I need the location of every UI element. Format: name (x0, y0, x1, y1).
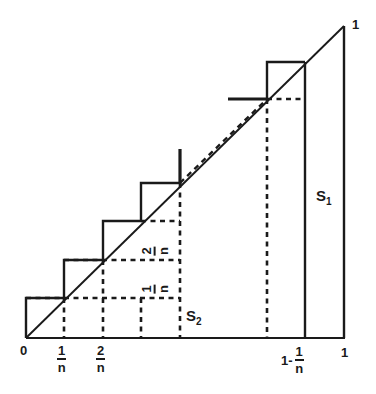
fraction-numerator: 1 (140, 284, 156, 293)
label-x-tick-one-over-n: 1 n (57, 344, 66, 374)
fraction-denominator: n (295, 361, 303, 375)
fraction-numerator: 1 (295, 345, 304, 361)
fraction-numerator: 2 (96, 344, 105, 360)
fraction-denominator: n (58, 360, 66, 374)
region-s1-subscript: 1 (326, 196, 332, 207)
fraction-denominator: n (156, 247, 170, 255)
label-x-tick-one: 1 (341, 346, 348, 359)
label-level-two-over-n: 2 n (150, 236, 176, 266)
label-origin: 0 (20, 344, 27, 357)
label-level-one-over-n: 1 n (150, 274, 176, 304)
expression-one-minus-one-over-n: 1- 1 n (281, 345, 304, 375)
region-s2-subscript: 2 (196, 316, 202, 327)
diagonal-line-y-equals-x (26, 26, 344, 338)
fraction-one-over-n-rotated: 1 n (140, 284, 170, 293)
region-s2-letter: S (186, 307, 196, 324)
label-x-tick-one-minus-one-over-n: 1- 1 n (281, 345, 304, 375)
fraction-numerator: 2 (140, 246, 156, 255)
fraction-one-over-n: 1 n (57, 344, 66, 374)
label-x-tick-two-over-n: 2 n (96, 344, 105, 374)
fraction-denominator: n (156, 285, 170, 293)
label-region-s2: S2 (186, 308, 202, 327)
fraction-one-over-n: 1 n (295, 345, 304, 375)
label-region-s1: S1 (316, 188, 332, 207)
fraction-denominator: n (97, 360, 105, 374)
figure-root: 0 1 n 2 n 1- 1 n 1 1 2 n (0, 0, 376, 394)
top-right-step-box (267, 62, 305, 99)
label-y-top-one: 1 (352, 18, 359, 31)
fraction-numerator: 1 (57, 344, 66, 360)
fraction-two-over-n-rotated: 2 n (140, 246, 170, 255)
dashed-diagonal-chord (180, 99, 267, 183)
minus-prefix: 1- (281, 354, 293, 367)
region-s1-letter: S (316, 187, 326, 204)
fraction-two-over-n: 2 n (96, 344, 105, 374)
